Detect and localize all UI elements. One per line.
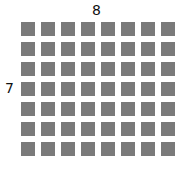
grid-square <box>21 62 35 76</box>
grid-square <box>61 22 75 36</box>
grid-square <box>21 142 35 156</box>
column-count-label: 8 <box>92 3 101 17</box>
grid-square <box>81 142 95 156</box>
grid-square <box>161 102 175 116</box>
grid-square <box>101 142 115 156</box>
grid-square <box>121 82 135 96</box>
grid-square <box>61 122 75 136</box>
grid-square <box>121 22 135 36</box>
grid-square <box>101 22 115 36</box>
grid-square <box>21 22 35 36</box>
grid-square <box>41 82 55 96</box>
grid-square <box>121 122 135 136</box>
grid-square <box>81 62 95 76</box>
grid-square <box>41 62 55 76</box>
grid-square <box>21 122 35 136</box>
grid-square <box>141 62 155 76</box>
grid-square <box>101 62 115 76</box>
grid-square <box>81 22 95 36</box>
grid-square <box>161 22 175 36</box>
grid-square <box>121 42 135 56</box>
grid-square <box>21 42 35 56</box>
grid-square <box>21 82 35 96</box>
grid-square <box>81 42 95 56</box>
grid-square <box>161 42 175 56</box>
grid-square <box>81 102 95 116</box>
grid-square <box>41 42 55 56</box>
grid-square <box>41 142 55 156</box>
grid-square <box>161 142 175 156</box>
grid-square <box>101 82 115 96</box>
grid-square <box>81 82 95 96</box>
grid-square <box>61 142 75 156</box>
grid-square <box>101 102 115 116</box>
grid-square <box>121 62 135 76</box>
grid-square <box>161 122 175 136</box>
grid-square <box>121 142 135 156</box>
grid-square <box>141 142 155 156</box>
grid-square <box>41 22 55 36</box>
grid-square <box>141 102 155 116</box>
grid-square <box>41 102 55 116</box>
grid-square <box>81 122 95 136</box>
square-grid <box>21 22 175 156</box>
grid-square <box>141 22 155 36</box>
grid-square <box>121 102 135 116</box>
grid-square <box>61 42 75 56</box>
grid-square <box>141 42 155 56</box>
grid-square <box>161 82 175 96</box>
grid-square <box>141 122 155 136</box>
grid-square <box>161 62 175 76</box>
grid-square <box>101 122 115 136</box>
grid-square <box>21 102 35 116</box>
grid-square <box>41 122 55 136</box>
grid-square <box>61 62 75 76</box>
grid-square <box>141 82 155 96</box>
row-count-label: 7 <box>5 81 14 95</box>
grid-square <box>61 102 75 116</box>
grid-square <box>61 82 75 96</box>
grid-square <box>101 42 115 56</box>
